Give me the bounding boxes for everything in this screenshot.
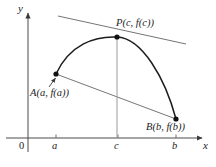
figure-canvas bbox=[0, 0, 216, 167]
x-tick-label-c: c bbox=[114, 141, 119, 152]
origin-label: 0 bbox=[19, 141, 24, 152]
secant-line-AB bbox=[56, 74, 176, 119]
x-tick-label-b: b bbox=[172, 141, 177, 152]
point-B-label: B(b, f(b)) bbox=[146, 122, 185, 133]
point-A-label: A(a, f(a)) bbox=[30, 88, 69, 99]
point-P-marker bbox=[114, 34, 119, 39]
mean-value-theorem-figure: y x 0 a c b P(c, f(c)) A(a, f(a)) B(b, f… bbox=[0, 0, 216, 167]
point-P-label: P(c, f(c)) bbox=[116, 18, 154, 29]
function-curve bbox=[56, 37, 176, 119]
x-axis-label: x bbox=[203, 140, 208, 151]
leader-arrow-to-A bbox=[49, 78, 56, 87]
point-A-marker bbox=[53, 71, 58, 76]
y-axis-label: y bbox=[18, 3, 23, 14]
x-tick-label-a: a bbox=[52, 141, 57, 152]
